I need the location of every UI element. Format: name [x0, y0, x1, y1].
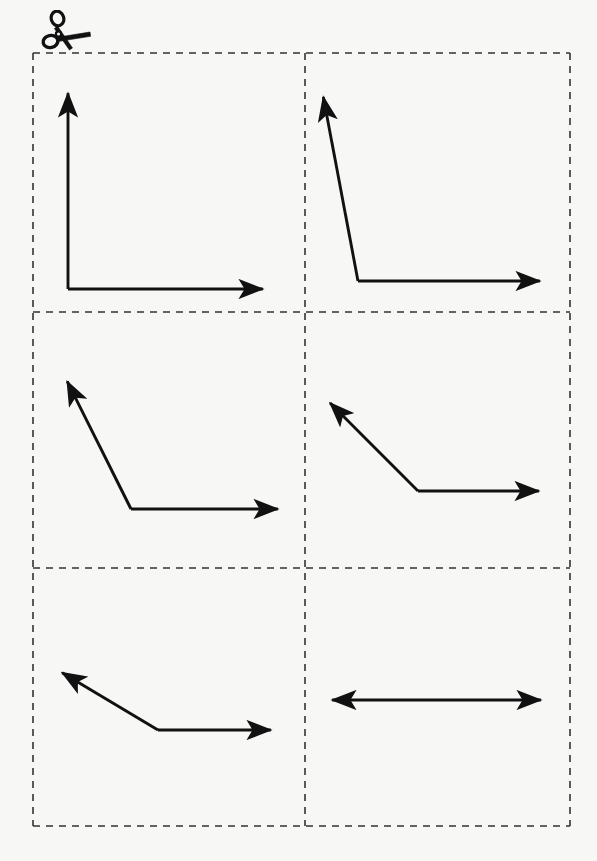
- angle-figures-group: [62, 93, 541, 730]
- ray-up-left: [330, 403, 418, 491]
- obtuse-angle-figure-100: [323, 97, 539, 281]
- ray-up-left: [67, 381, 131, 509]
- ray-up-left-steep: [323, 97, 358, 281]
- right-angle-figure: [68, 93, 263, 289]
- obtuse-angle-figure-150: [62, 673, 271, 730]
- obtuse-angle-figure-135: [330, 403, 539, 491]
- cut-out-grid: [33, 53, 570, 826]
- angles-figure-canvas: [0, 0, 597, 861]
- worksheet-page: [0, 0, 597, 861]
- obtuse-angle-figure-125: [67, 381, 278, 509]
- ray-up-left-shallow: [62, 673, 158, 730]
